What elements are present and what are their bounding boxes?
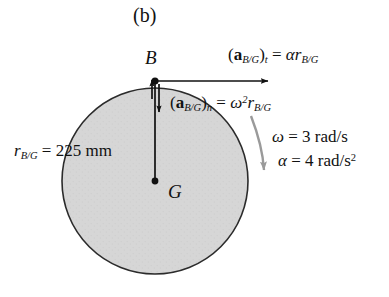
alpha-symbol-val: α [278, 151, 287, 170]
equals-sign-a: = [291, 151, 301, 170]
equals-sign-r: = [42, 141, 52, 160]
vector-a-symbol-n: a [176, 93, 185, 112]
vector-a-symbol: a [234, 45, 243, 64]
rotation-sense-curved-arrow [251, 116, 264, 170]
equals-sign-n: = [216, 93, 226, 112]
subscript-n: n [207, 102, 212, 113]
omega-symbol: ω [230, 93, 242, 112]
equals-sign-w: = [288, 127, 298, 146]
radius-value: 225 mm [56, 141, 112, 160]
subscript-t: t [265, 54, 268, 65]
normal-acceleration-label: (aB/G)n = ω2rB/G [170, 94, 271, 113]
tangential-acceleration-label: (aB/G)t = αrB/G [228, 46, 318, 65]
angular-velocity-label: ω = 3 rad/s [272, 128, 348, 145]
point-g-marker [152, 178, 159, 185]
subscript-bg-2: B/G [301, 54, 318, 65]
omega-symbol-val: ω [272, 127, 284, 146]
equals-sign: = [272, 45, 282, 64]
r-symbol-dim: r [14, 141, 21, 160]
radius-label: rB/G = 225 mm [14, 142, 112, 161]
alpha-symbol: α [286, 45, 295, 64]
subscript-bg-n2: B/G [254, 102, 271, 113]
subscript-bg: B/G [242, 54, 259, 65]
subscript-bg-n: B/G [184, 102, 201, 113]
angular-acceleration-label: α = 4 rad/s2 [278, 152, 356, 169]
subscript-bg-dim: B/G [21, 150, 38, 161]
alpha-value-exponent: 2 [351, 152, 356, 163]
point-g-label: G [168, 182, 182, 201]
figure-container: (b) B G (aB/G)t = αrB/G (aB/G)n = ω2rB/G… [0, 0, 389, 297]
omega-value: 3 rad/s [302, 127, 348, 146]
alpha-value: 4 rad/s [305, 151, 351, 170]
point-b-label: B [145, 48, 157, 67]
figure-caption: (b) [133, 5, 156, 25]
